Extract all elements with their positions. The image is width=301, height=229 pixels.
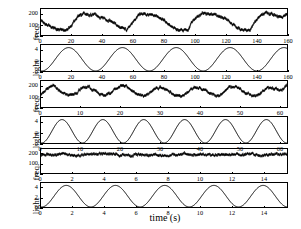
panel-2-light-slow-xtick-160: 160 <box>278 74 298 80</box>
panel-2-light-slow-xtickmark <box>133 70 134 73</box>
panel-2-light-slow-xtickmark <box>102 70 103 73</box>
panel-2-light-slow-xtickmark <box>40 70 41 73</box>
panel-1-freq-slow-xtick-140: 140 <box>247 38 267 44</box>
panel-6-light-fast-ytickmark <box>40 187 43 188</box>
panel-2-light-slow-xtickmark <box>164 70 165 73</box>
panel-6-light-fast-xtick-10: 10 <box>190 210 210 216</box>
panel-5-freq-fast-xtickmark <box>232 172 233 175</box>
panel-2-light-slow-xtick-80: 80 <box>154 74 174 80</box>
panel-1-freq-slow-ytickmark <box>40 25 43 26</box>
panel-1-freq-slow-xtick-80: 80 <box>154 38 174 44</box>
panel-1-freq-slow-xtick-40: 40 <box>92 38 112 44</box>
panel-2-light-slow-ytickmark <box>40 50 43 51</box>
panel-6-light-fast-xtick-6: 6 <box>126 210 146 216</box>
panel-6-light-fast-xtick-0: 0 <box>30 210 50 216</box>
panel-2-light-slow-xtickmark <box>257 70 258 73</box>
panel-5-freq-fast-ytick-100: 100 <box>18 160 38 166</box>
panel-3-freq-mid-ytick-200: 200 <box>18 82 38 88</box>
panel-6-light-fast-ytickmark <box>40 198 43 199</box>
panel-3-freq-mid-xtick-20: 20 <box>110 110 130 116</box>
panel-2-light-slow-ytickmark <box>40 61 43 62</box>
panel-2-light-slow-xtick-0: 0 <box>30 74 50 80</box>
panel-6-plot-area <box>40 182 288 208</box>
panel-1-freq-slow-xtick-120: 120 <box>216 38 236 44</box>
panel-4-light-mid-xtick-50: 50 <box>230 146 250 152</box>
panel-5-freq-fast-xtick-4: 4 <box>94 176 114 182</box>
panel-5-freq-fast-xtick-6: 6 <box>126 176 146 182</box>
panel-1-freq-slow-xtickmark <box>226 34 227 37</box>
panel-4-light-mid-xtick-40: 40 <box>190 146 210 152</box>
panel-1-freq-slow-xtickmark <box>288 34 289 37</box>
panel-1-freq-slow-xtick-60: 60 <box>123 38 143 44</box>
panel-4-light-mid-ytickmark <box>40 122 43 123</box>
panel-3-freq-mid-xtick-50: 50 <box>230 110 250 116</box>
panel-6-light-fast-xtick-12: 12 <box>222 210 242 216</box>
panel-4-light-mid-xtickmark <box>120 142 121 145</box>
panel-1-freq-slow-xtick-100: 100 <box>185 38 205 44</box>
panel-5-freq-fast-xtick-2: 2 <box>62 176 82 182</box>
panel-4-light-mid-xtickmark <box>80 142 81 145</box>
panel-2-light-slow-xtick-40: 40 <box>92 74 112 80</box>
panel-3-freq-mid-xtickmark <box>160 106 161 109</box>
panel-6-light-fast-ytick-4: 4 <box>18 184 38 190</box>
panel-1-freq-slow-xtick-160: 160 <box>278 38 298 44</box>
panel-2-light-slow-xtick-140: 140 <box>247 74 267 80</box>
panel-3-freq-mid-xtick-0: 0 <box>30 110 50 116</box>
panel-5-freq-fast-xtickmark <box>72 172 73 175</box>
panel-5-plot-area <box>40 148 288 174</box>
panel-3-freq-mid-xtick-30: 30 <box>150 110 170 116</box>
panel-5-freq-fast-ytick-200: 200 <box>18 150 38 156</box>
panel-4-light-mid-xtickmark <box>160 142 161 145</box>
panel-3-freq-mid-xtickmark <box>40 106 41 109</box>
panel-1-freq-slow-ytickmark <box>40 14 43 15</box>
panel-4-light-mid-xtickmark <box>200 142 201 145</box>
panel-3-freq-mid-xtickmark <box>240 106 241 109</box>
panel-6-light-fast-xtickmark <box>104 206 105 209</box>
panel-3-freq-mid-ytickmark <box>40 86 43 87</box>
panel-1-freq-slow-xtickmark <box>40 34 41 37</box>
panel-4-light-mid-xtick-30: 30 <box>150 146 170 152</box>
panel-2-light-slow-ytick-4: 4 <box>18 46 38 52</box>
panel-5-freq-fast-xtick-0: 0 <box>30 176 50 182</box>
panel-2-light-slow-xtick-120: 120 <box>216 74 236 80</box>
panel-3-freq-mid-xtick-10: 10 <box>70 110 90 116</box>
panel-1-freq-slow-xtickmark <box>195 34 196 37</box>
panel-4-light-mid-xtickmark <box>40 142 41 145</box>
panel-2-light-slow-xtick-60: 60 <box>123 74 143 80</box>
panel-3-freq-mid-ytickmark <box>40 97 43 98</box>
panel-5-freq-fast-xtickmark <box>104 172 105 175</box>
panel-5-freq-fast-xtickmark <box>136 172 137 175</box>
panel-1-freq-trace <box>41 9 287 35</box>
panel-4-light-mid-xtick-10: 10 <box>70 146 90 152</box>
panel-2-plot-area <box>40 44 288 72</box>
panel-6-light-fast-xtick-8: 8 <box>158 210 178 216</box>
figure-panel-grid: freq. light freq. light freq. light <box>0 0 301 229</box>
panel-4-light-mid-xtick-20: 20 <box>110 146 130 152</box>
panel-5-freq-fast-xtick-8: 8 <box>158 176 178 182</box>
panel-4-light-mid-xtickmark <box>280 142 281 145</box>
panel-3-freq-mid-xtickmark <box>120 106 121 109</box>
panel-1-freq-slow-xtickmark <box>71 34 72 37</box>
panel-6-light-fast-xtickmark <box>168 206 169 209</box>
panel-3-freq-trace <box>41 81 287 107</box>
panel-1-plot-area <box>40 8 288 36</box>
panel-5-freq-fast-xtick-14: 14 <box>254 176 274 182</box>
panel-1-freq-slow-ytick-100: 100 <box>18 22 38 28</box>
panel-6-light-fast-xtickmark <box>136 206 137 209</box>
panel-2-light-slow-xtickmark <box>195 70 196 73</box>
panel-6-light-fast-xtick-4: 4 <box>94 210 114 216</box>
panel-6-light-trace <box>41 183 287 207</box>
panel-6-light-fast-xtickmark <box>264 206 265 209</box>
panel-4-plot-area <box>40 116 288 144</box>
panel-5-freq-fast-xtick-10: 10 <box>190 176 210 182</box>
panel-6-light-fast-xtickmark <box>40 206 41 209</box>
panel-1-freq-slow-xtick-0: 0 <box>30 38 50 44</box>
panel-1-freq-slow-xtickmark <box>164 34 165 37</box>
panel-3-freq-mid-xtick-40: 40 <box>190 110 210 116</box>
panel-3-freq-mid-xtickmark <box>80 106 81 109</box>
panel-4-light-mid-ytickmark <box>40 133 43 134</box>
panel-5-freq-trace <box>41 149 287 173</box>
panel-3-plot-area <box>40 80 288 108</box>
panel-2-light-slow-ytick-2: 2 <box>18 58 38 64</box>
panel-4-light-mid-xtick-60: 60 <box>270 146 290 152</box>
